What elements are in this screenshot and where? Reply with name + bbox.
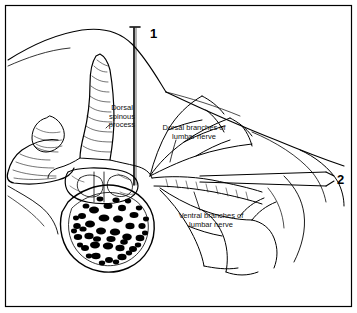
label-ventral-branches-of-lumbar-nerve: Ventral branches of lumbar nerve xyxy=(172,212,250,229)
anatomical-diagram: Dorsal spinous process Dorsal branches o… xyxy=(0,0,357,313)
diagram-artwork xyxy=(0,0,357,313)
marker-1-label: 1 xyxy=(150,26,157,41)
label-dorsal-branches-of-lumbar-nerve: Dorsal branches of lumbar nerve xyxy=(158,124,230,141)
label-dorsal-spinous-process: Dorsal spinous process xyxy=(100,104,144,130)
figure-border xyxy=(6,6,352,307)
marker-2-label: 2 xyxy=(337,172,344,187)
